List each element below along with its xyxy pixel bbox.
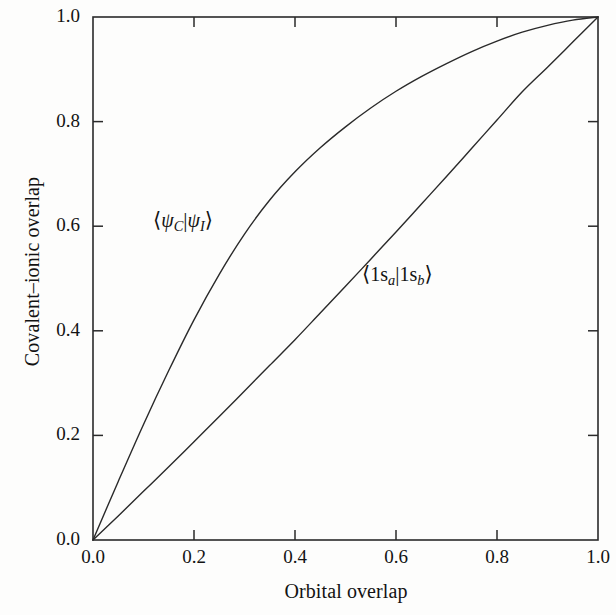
bra-bracket-icon: ⟨ (153, 208, 161, 232)
one-s-a-lead: 1s (370, 263, 388, 285)
curve-covalent-ionic-overlap (93, 17, 598, 540)
psi-i-symbol: ψ (187, 209, 199, 231)
x-tick-label-4: 0.8 (462, 546, 532, 568)
y-tick-label-5: 1.0 (20, 5, 80, 27)
plot-area-svg (0, 0, 616, 615)
x-tick-label-0: 0.0 (58, 546, 128, 568)
ket-bracket-icon: ⟩ (205, 208, 213, 232)
x-tick-label-2: 0.4 (260, 546, 330, 568)
curve-1s-1s-overlap (93, 17, 598, 540)
x-tick-label-1: 0.2 (159, 546, 229, 568)
x-axis-title: Orbital overlap (93, 580, 599, 603)
plot-frame (93, 17, 598, 540)
annotation-1s-1s-overlap: ⟨1sa|1sb⟩ (362, 262, 433, 289)
figure-canvas: 0.0 0.2 0.4 0.6 0.8 1.0 0.0 0.2 0.4 0.6 … (0, 0, 616, 615)
one-s-b-lead: 1s (399, 263, 417, 285)
annotation-covalent-ionic-overlap: ⟨ψC|ψI⟩ (153, 208, 213, 235)
x-tick-label-5: 1.0 (563, 546, 616, 568)
bra-bracket-icon-2: ⟨ (362, 262, 370, 286)
ket-bracket-icon-2: ⟩ (424, 262, 432, 286)
psi-c-symbol: ψ (161, 209, 173, 231)
psi-c-subscript: C (174, 218, 184, 234)
y-axis-ticks (93, 122, 598, 436)
x-axis-ticks (194, 17, 497, 540)
y-axis-title: Covalent–ionic overlap (21, 112, 44, 432)
x-tick-label-3: 0.6 (361, 546, 431, 568)
